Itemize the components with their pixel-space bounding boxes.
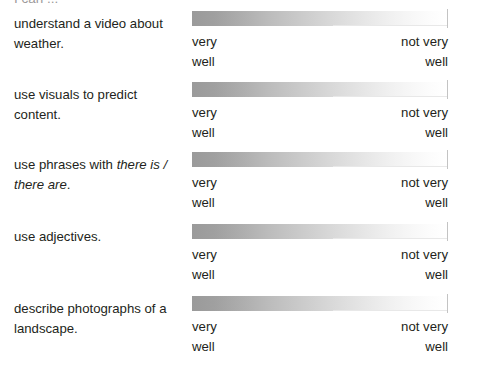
statement-text: understand a video about weather.	[14, 14, 182, 53]
assessment-row: describe photographs of a landscape. ver…	[0, 296, 488, 362]
statement-text: describe photographs of a landscape.	[14, 299, 182, 338]
assessment-row: use phrases with there is / there are. v…	[0, 152, 488, 218]
scale-label-high: not very well	[401, 173, 448, 212]
statement-segment: describe photographs of a landscape.	[14, 301, 167, 336]
scale-label-low: very well	[192, 32, 217, 71]
scale-label-high: not very well	[401, 103, 448, 142]
rating-scale-labels: very well not very well	[192, 103, 448, 143]
scale-label-low: very well	[192, 103, 217, 142]
rating-scale-gradient-bar[interactable]	[192, 224, 448, 239]
scale-label-low: very well	[192, 173, 217, 212]
scale-label-high: not very well	[401, 32, 448, 71]
rating-scale[interactable]: very well not very well	[192, 11, 448, 72]
statement-segment: use adjectives.	[14, 229, 101, 244]
statement-segment: understand a video about weather.	[14, 16, 163, 51]
rating-scale[interactable]: very well not very well	[192, 224, 448, 285]
rating-scale-gradient-bar[interactable]	[192, 296, 448, 311]
statement-text: use adjectives.	[14, 227, 182, 247]
statement-text: use phrases with there is / there are.	[14, 155, 182, 194]
rating-scale[interactable]: very well not very well	[192, 152, 448, 213]
rating-scale-gradient-bar[interactable]	[192, 11, 448, 26]
rating-scale-labels: very well not very well	[192, 317, 448, 357]
rating-scale-gradient-bar[interactable]	[192, 152, 448, 167]
page-heading: I can ...	[14, 0, 58, 7]
rating-scale-labels: very well not very well	[192, 245, 448, 285]
scale-label-low: very well	[192, 245, 217, 284]
rating-scale-gradient-bar[interactable]	[192, 82, 448, 97]
rating-scale[interactable]: very well not very well	[192, 296, 448, 357]
scale-label-high: not very well	[401, 245, 448, 284]
statement-segment: .	[67, 177, 71, 192]
rating-scale[interactable]: very well not very well	[192, 82, 448, 143]
scale-label-low: very well	[192, 317, 217, 356]
self-assessment-worksheet: I can ... understand a video about weath…	[0, 0, 488, 369]
statement-segment: use visuals to predict content.	[14, 87, 137, 122]
rating-scale-labels: very well not very well	[192, 173, 448, 213]
assessment-row: use visuals to predict content. very wel…	[0, 82, 488, 148]
assessment-row: use adjectives. very well not very well	[0, 224, 488, 290]
rating-scale-labels: very well not very well	[192, 32, 448, 72]
assessment-row: understand a video about weather. very w…	[0, 11, 488, 77]
scale-label-high: not very well	[401, 317, 448, 356]
statement-text: use visuals to predict content.	[14, 85, 182, 124]
statement-segment: use phrases with	[14, 157, 117, 172]
